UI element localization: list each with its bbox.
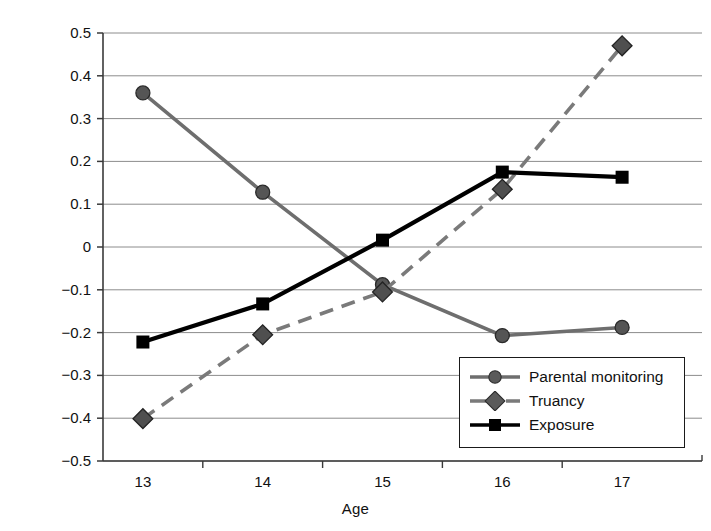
data-point-marker [495, 329, 509, 343]
data-point-marker [256, 297, 269, 310]
data-point-marker [253, 325, 273, 345]
data-point-marker [256, 185, 270, 199]
x-tick-label: 16 [472, 474, 532, 489]
legend-item-truancy: Truancy [468, 389, 674, 413]
data-point-marker [496, 166, 509, 179]
legend-item-parental-monitoring: Parental monitoring [468, 365, 674, 389]
data-point-marker [136, 336, 149, 349]
legend-label-truancy: Truancy [529, 393, 584, 409]
x-tick-label: 14 [233, 474, 293, 489]
data-point-marker [136, 86, 150, 100]
legend-label-parental-monitoring: Parental monitoring [529, 369, 663, 385]
data-point-marker [615, 320, 629, 334]
series-line [143, 172, 622, 342]
x-tick-label: 15 [353, 474, 413, 489]
legend-label-exposure: Exposure [529, 417, 594, 433]
data-point-marker [376, 234, 389, 247]
legend-item-exposure: Exposure [468, 413, 674, 437]
chart-figure: Mean z-score 0.50.40.30.20.10−0.1−0.2−0.… [0, 0, 711, 531]
x-tick-label: 13 [113, 474, 173, 489]
plot-area [0, 0, 711, 531]
data-point-marker [616, 171, 629, 184]
square-marker-icon [468, 415, 522, 435]
x-tick-label: 17 [592, 474, 652, 489]
diamond-marker-icon [468, 391, 522, 411]
legend-box: Parental monitoring Truancy Exposure [459, 357, 685, 448]
circle-marker-icon [468, 367, 522, 387]
x-axis-title: Age [0, 500, 711, 517]
